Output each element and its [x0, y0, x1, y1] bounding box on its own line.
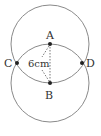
dimension-line-upper [42, 46, 49, 57]
label-c: C [4, 57, 12, 70]
point-d [80, 61, 84, 65]
point-b [48, 81, 52, 85]
label-b: B [45, 89, 53, 102]
point-c [15, 61, 19, 65]
label-d: D [86, 57, 95, 70]
label-a: A [45, 29, 55, 42]
dimension-line-lower [42, 70, 49, 81]
two-circles-diagram: A B C D 6cm [0, 0, 101, 136]
measurement-label: 6cm [28, 58, 50, 69]
point-a [48, 42, 52, 46]
